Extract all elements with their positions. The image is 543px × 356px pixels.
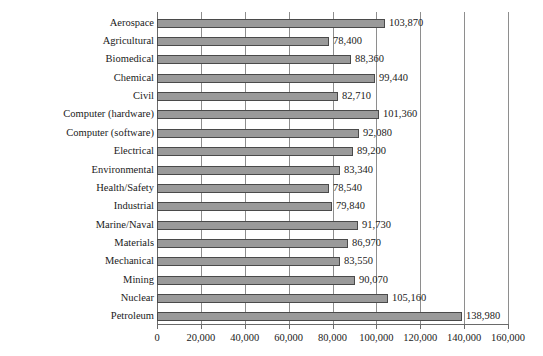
category-label: Civil (133, 90, 154, 102)
category-label: Environmental (92, 164, 154, 176)
category-label: Mechanical (105, 255, 154, 267)
category-label: Mining (123, 274, 154, 286)
category-label: Biomedical (106, 53, 154, 65)
category-labels-group: AerospaceAgriculturalBiomedicalChemicalC… (0, 0, 543, 356)
plot-wrapper: 103,87078,40088,36099,44082,710101,36092… (0, 0, 543, 356)
category-label: Computer (software) (66, 127, 154, 139)
category-label: Electrical (114, 145, 154, 157)
x-tick-label: 40,000 (230, 331, 259, 344)
category-label: Materials (114, 237, 154, 249)
category-label: Computer (hardware) (63, 108, 154, 120)
x-tick-label: 20,000 (186, 331, 215, 344)
category-label: Industrial (114, 200, 154, 212)
x-tick-label: 100,000 (359, 331, 393, 344)
x-tick-label: 160,000 (491, 331, 525, 344)
bar-chart-figure: 103,87078,40088,36099,44082,710101,36092… (0, 0, 543, 356)
x-tick-label: 140,000 (447, 331, 481, 344)
category-label: Nuclear (121, 292, 154, 304)
category-label: Agricultural (103, 35, 154, 47)
x-tick-label: 60,000 (274, 331, 303, 344)
category-label: Aerospace (110, 17, 154, 29)
x-tick-label: 80,000 (318, 331, 347, 344)
category-label: Health/Safety (96, 182, 154, 194)
category-label: Chemical (114, 72, 154, 84)
x-tick-label: 0 (154, 331, 159, 344)
category-label: Petroleum (111, 310, 154, 322)
x-tick-label: 120,000 (403, 331, 437, 344)
category-label: Marine/Naval (96, 219, 154, 231)
